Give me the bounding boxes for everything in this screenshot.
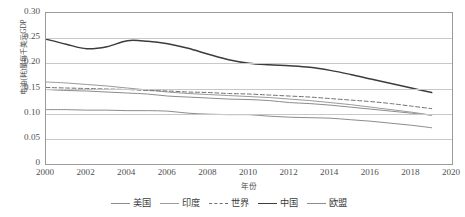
x-tick-label: 2016: [350, 168, 390, 177]
plot-area: [45, 12, 453, 165]
chart-legend: 美国印度世界中国欧盟: [0, 195, 458, 213]
legend-item-印度[interactable]: 印度: [160, 199, 200, 208]
x-tick-label: 2018: [390, 168, 430, 177]
gridline: [46, 63, 452, 64]
y-tick-label: 0.10: [8, 108, 40, 117]
y-tick-label: 0.25: [8, 32, 40, 41]
y-tick-label: 0.15: [8, 83, 40, 92]
gridline: [46, 38, 452, 39]
legend-swatch-icon: [307, 203, 326, 204]
legend-label: 美国: [133, 199, 151, 208]
y-axis-tick-labels: 0.300.250.200.150.100.050: [8, 0, 40, 217]
x-tick-label: 2020: [431, 168, 465, 177]
gridline: [46, 139, 452, 140]
y-tick-label: 0.20: [8, 57, 40, 66]
x-tick-label: 2000: [25, 168, 65, 177]
series-line-欧盟: [46, 110, 432, 128]
legend-swatch-icon: [258, 203, 277, 204]
x-tick-label: 2014: [309, 168, 349, 177]
y-tick-label: 0.05: [8, 133, 40, 142]
legend-label: 中国: [280, 199, 298, 208]
x-tick-label: 2008: [187, 168, 227, 177]
legend-swatch-icon: [160, 203, 179, 204]
y-tick-label: 0: [8, 158, 40, 167]
x-tick-label: 2012: [269, 168, 309, 177]
legend-label: 世界: [231, 199, 249, 208]
legend-item-欧盟[interactable]: 欧盟: [307, 199, 347, 208]
legend-item-世界[interactable]: 世界: [209, 199, 249, 208]
legend-swatch-icon: [209, 203, 228, 204]
gridline: [46, 89, 452, 90]
y-tick-label: 0.30: [8, 7, 40, 16]
x-tick-label: 2002: [66, 168, 106, 177]
x-axis-label: 年份: [45, 180, 453, 191]
legend-item-中国[interactable]: 中国: [258, 199, 298, 208]
x-tick-label: 2010: [228, 168, 268, 177]
legend-swatch-icon: [111, 203, 130, 204]
legend-label: 印度: [182, 199, 200, 208]
x-tick-label: 2006: [147, 168, 187, 177]
legend-label: 欧盟: [329, 199, 347, 208]
series-line-世界: [46, 87, 432, 108]
gridline: [46, 114, 452, 115]
x-tick-label: 2004: [106, 168, 146, 177]
series-line-中国: [46, 39, 432, 92]
legend-item-美国[interactable]: 美国: [111, 199, 151, 208]
